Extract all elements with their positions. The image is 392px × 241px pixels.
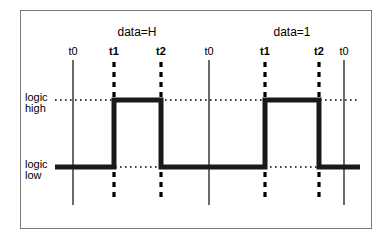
logic-low-label: logic low xyxy=(25,159,48,181)
time-label-t0-2: t0 xyxy=(204,46,213,57)
time-label-t1-2: t1 xyxy=(260,46,270,57)
time-label-t2-2: t2 xyxy=(314,46,324,57)
logic-high-label-line2: high xyxy=(25,103,48,114)
time-label-t1-1: t1 xyxy=(109,46,119,57)
data-annotation-one: data=1 xyxy=(273,26,310,38)
logic-high-label: logic high xyxy=(25,92,48,114)
time-label-t0-1: t0 xyxy=(68,46,77,57)
time-label-t2-1: t2 xyxy=(156,46,166,57)
logic-low-label-line2: low xyxy=(25,170,48,181)
waveform-canvas xyxy=(0,0,392,241)
timing-diagram-figure: logic high logic low data=H data=1 t0 t1… xyxy=(0,0,392,241)
time-label-t0-3: t0 xyxy=(339,46,348,57)
data-annotation-high: data=H xyxy=(117,26,156,38)
signal-waveform xyxy=(55,100,360,167)
